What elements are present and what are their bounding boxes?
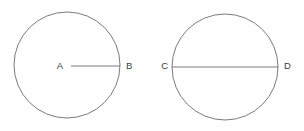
point-label-b: B	[126, 60, 132, 71]
circle-diameter-group: C D	[161, 14, 291, 120]
geometry-diagram: A B C D	[0, 0, 304, 131]
circle-radius-outline	[14, 12, 120, 118]
geometry-canvas: A B C D	[0, 0, 304, 131]
point-label-a: A	[57, 60, 64, 71]
circle-radius-group: A B	[14, 12, 132, 118]
point-label-d: D	[284, 60, 291, 71]
point-label-c: C	[161, 60, 168, 71]
